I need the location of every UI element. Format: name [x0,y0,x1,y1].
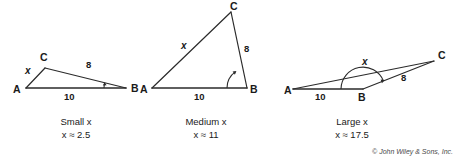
triangle-small-side-8-label: 8 [86,60,91,70]
caption-large-value: x ≈ 17.5 [302,129,402,142]
triangle-small-vertex-C-label: C [40,52,48,63]
ssa-triangles-figure: A C B x 8 10 A C B x 8 10 A C B x 8 10 S… [0,0,457,158]
triangle-large-side-x-label: x [362,57,368,67]
triangle-medium-side-AC [152,12,231,88]
triangle-large-vertex-A-label: A [284,85,292,96]
triangle-medium-angle-arc [227,72,235,88]
caption-small-title: Small x [26,116,126,129]
triangle-large-side-8-label: 8 [401,73,406,83]
caption-medium-value: x ≈ 11 [156,129,256,142]
triangle-large-vertex-C-label: C [438,50,446,61]
triangle-small [26,68,126,88]
triangle-small-vertex-A-label: A [13,84,21,95]
triangle-small-side-10-label: 10 [64,92,75,102]
triangle-medium-side-10-label: 10 [194,92,205,102]
caption-small: Small x x ≈ 2.5 [26,116,126,142]
triangle-medium-side-8-label: 8 [244,44,249,54]
triangle-small-vertex-B-label: B [131,83,139,94]
triangle-medium [152,12,247,88]
caption-medium: Medium x x ≈ 11 [156,116,256,142]
triangle-large-side-CB [363,61,434,89]
triangle-medium-vertex-A-label: A [140,84,148,95]
copyright-credit: © John Wiley & Sons, Inc. [372,148,453,155]
triangle-large-side-10-label: 10 [315,92,326,102]
triangle-medium-vertex-C-label: C [230,1,238,12]
triangle-medium-side-x-label: x [181,41,187,51]
caption-small-value: x ≈ 2.5 [26,129,126,142]
caption-large-title: Large x [302,116,402,129]
triangle-small-side-x-label: x [25,66,31,76]
caption-medium-title: Medium x [156,116,256,129]
triangle-large-vertex-B-label: B [358,92,366,103]
caption-large: Large x x ≈ 17.5 [302,116,402,142]
triangle-medium-vertex-B-label: B [250,84,258,95]
triangle-small-side-CB [45,68,126,88]
